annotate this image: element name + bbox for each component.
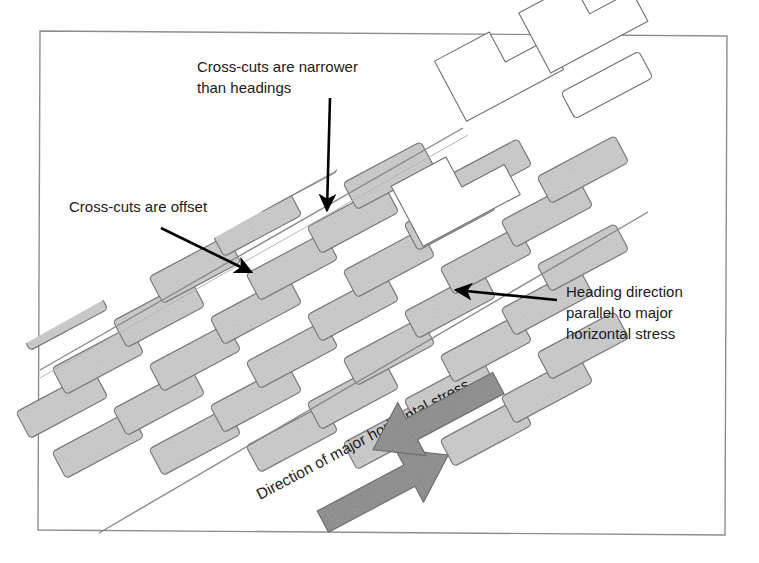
annotation-line: parallel to major [566,304,673,321]
annotation-line: Cross-cuts are narrower [197,58,358,75]
annotation-line: Cross-cuts are offset [69,198,208,215]
diagram-canvas: Direction of major horizontal stress Cro… [0,0,759,563]
annotation-line: than headings [197,79,291,96]
annotation-line: horizontal stress [566,325,675,342]
svg-text:Heading direction para: Heading direction parallel to major hori… [566,283,720,342]
svg-text:Cross-cuts are offset: Cross-cuts are offset [69,198,236,215]
mine-layout-diagram: Direction of major horizontal stress Cro… [0,0,759,563]
annotation-line: Heading direction [566,283,683,300]
